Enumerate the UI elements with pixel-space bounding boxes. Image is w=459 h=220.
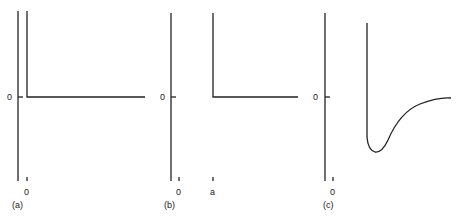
panel-b-caption: (b) xyxy=(164,201,175,210)
panel-c-y-zero-label: 0 xyxy=(313,93,318,102)
panel-b-x-tick-label-0: 0 xyxy=(176,188,181,197)
panel-a-curve xyxy=(27,11,145,97)
figure-canvas xyxy=(0,0,459,220)
panel-b-y-zero-label: 0 xyxy=(160,93,165,102)
panel-c-x-tick-label: 0 xyxy=(330,188,335,197)
panel-a-y-zero-label: 0 xyxy=(7,93,12,102)
panel-a-x-tick-label: 0 xyxy=(24,188,29,197)
panel-b-x-tick-label-a: a xyxy=(210,188,215,197)
panel-a-caption: (a) xyxy=(12,201,23,210)
panel-c-curve xyxy=(367,23,451,152)
panel-b-curve xyxy=(213,13,298,97)
panel-c-caption: (c) xyxy=(323,201,334,210)
